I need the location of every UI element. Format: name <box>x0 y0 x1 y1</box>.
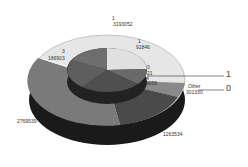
series-label-outer: 0 <box>226 85 231 91</box>
label-outer-top-value: 3193052 <box>113 21 132 27</box>
label-bottom-left-value: 2769539 <box>17 118 36 124</box>
label-bottom-right-value: 1263534 <box>163 131 182 137</box>
label-outer-left-value: 166903 <box>48 55 65 61</box>
label-outer-left-name: 3 <box>62 48 65 54</box>
label-other-value: 301330 <box>186 89 203 95</box>
series-label-inner: 1 <box>226 71 231 77</box>
label-inner-top-value: 91846 <box>136 44 150 50</box>
label-inner-right-extra2: 9058 <box>146 80 157 86</box>
